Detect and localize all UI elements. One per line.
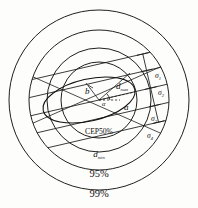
sigma-3-subscript: 3 <box>155 119 158 124</box>
cep50-label: CEP50% <box>85 127 114 136</box>
semi-major-label: a <box>124 102 129 112</box>
sigma-4-label: σ4 <box>147 131 154 141</box>
semi-minor-label: b' <box>85 86 92 96</box>
cep-diagram-canvas: σ1 σ2 σ3 σ4 dmax b' a α <box>0 0 198 208</box>
sigma-2-label: σ2 <box>158 88 165 98</box>
angle-alpha-label: α <box>102 100 106 107</box>
axis-label-group: dmax b' a α <box>85 81 129 112</box>
sigma-2-subscript: 2 <box>162 93 165 98</box>
cep-diagram-root: σ1 σ2 σ3 σ4 dmax b' a α <box>0 0 198 208</box>
angle-alpha-arc <box>107 94 110 100</box>
band-line-2 <box>0 59 198 106</box>
dmin-subscript: min <box>98 155 106 160</box>
sigma-1-subscript: 1 <box>159 76 161 81</box>
dmax-subscript: max <box>121 87 129 92</box>
p99-label: 99% <box>89 188 109 199</box>
dmax-label: dmax <box>116 81 128 92</box>
dmin-label: dmin <box>93 149 105 160</box>
sigma-1-label: σ1 <box>155 71 161 81</box>
p95-label: 95% <box>89 168 109 179</box>
sigma-4-subscript: 4 <box>151 136 154 141</box>
